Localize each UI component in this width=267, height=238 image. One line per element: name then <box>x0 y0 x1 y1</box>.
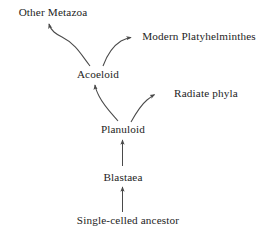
arrow-planuloid-to-radiate-phyla <box>131 95 155 122</box>
node-single-celled-ancestor: Single-celled ancestor <box>77 215 179 226</box>
arrow-planuloid-to-acoeloid <box>95 85 118 121</box>
node-radiate-phyla: Radiate phyla <box>174 88 238 99</box>
node-planuloid: Planuloid <box>101 124 145 135</box>
arrow-acoeloid-to-other-metazoa <box>49 24 90 66</box>
node-blastaea: Blastaea <box>103 172 142 183</box>
arrow-acoeloid-to-modern-platyhelminthes <box>103 38 131 67</box>
node-modern-platyhelminthes: Modern Platyhelminthes <box>142 31 256 42</box>
node-other-metazoa: Other Metazoa <box>19 7 88 18</box>
evolutionary-diagram: Other Metazoa Modern Platyhelminthes Aco… <box>0 0 267 238</box>
node-acoeloid: Acoeloid <box>77 69 119 80</box>
